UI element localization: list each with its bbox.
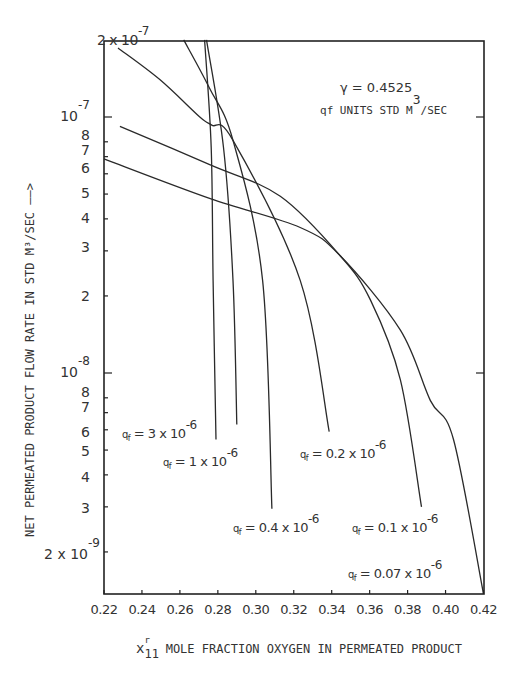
y-tick-3b: 3	[30, 500, 90, 516]
x-tick-label: 0.38	[394, 602, 421, 617]
curve-label-1e-6: qf = 1 x 10-6	[163, 450, 238, 469]
y-tick-2: 2	[30, 288, 90, 304]
y-tick-6b: 6	[30, 424, 90, 440]
y-axis-title: NET PERMEATED PRODUCT FLOW RATE IN STD M…	[23, 183, 37, 537]
y-tick-3: 3	[30, 239, 90, 255]
y-tick-1e-8: 10-8	[30, 360, 90, 380]
x-tick-label: 0.36	[356, 602, 383, 617]
y-tick-5: 5	[30, 185, 90, 201]
chart-annotation: γ = 0.4525 qf UNITS STD M3/SEC	[340, 80, 447, 117]
x-tick-label: 0.40	[432, 602, 459, 617]
y-tick-1e-7: 10-7	[30, 104, 90, 124]
y-tick-7b: 7	[30, 399, 90, 415]
x-tick-label: 0.34	[318, 602, 345, 617]
x-tick-label: 0.22	[91, 602, 118, 617]
y-tick-2e-9: 2 x 10-9	[40, 542, 100, 562]
curve-label-0.07e-6: qf = 0.07 x 10-6	[348, 562, 442, 581]
y-tick-8: 8	[30, 127, 90, 143]
x-axis-title: xr11 MOLE FRACTION OXYGEN IN PERMEATED P…	[136, 640, 462, 656]
y-tick-6: 6	[30, 160, 90, 176]
data-curves	[104, 40, 484, 594]
x-tick-label: 0.26	[166, 602, 193, 617]
gamma-label: γ = 0.4525	[340, 80, 447, 95]
x-tick-label: 0.24	[128, 602, 155, 617]
curve-label-0.2e-6: qf = 0.2 x 10-6	[300, 442, 386, 461]
y-tick-8b: 8	[30, 384, 90, 400]
y-tick-4: 4	[30, 210, 90, 226]
x-tick-label: 0.30	[242, 602, 269, 617]
x-tick-label: 0.28	[204, 602, 231, 617]
units-label: qf UNITS STD M3/SEC	[320, 97, 447, 117]
y-tick-label-top: 2 x 10-7	[97, 28, 149, 48]
curve-label-0.4e-6: qf = 0.4 x 10-6	[233, 516, 319, 535]
x-tick-label: 0.42	[470, 602, 497, 617]
y-tick-5b: 5	[30, 443, 90, 459]
curve-3	[184, 40, 272, 509]
curve-2	[207, 40, 237, 425]
x-tick-label: 0.32	[280, 602, 307, 617]
curve-1	[205, 40, 216, 440]
curve-label-3e-6: qf = 3 x 10-6	[122, 422, 197, 441]
y-tick-7: 7	[30, 142, 90, 158]
curve-4	[118, 48, 329, 432]
curve-label-0.1e-6: qf = 0.1 x 10-6	[352, 516, 438, 535]
y-tick-4b: 4	[30, 469, 90, 485]
